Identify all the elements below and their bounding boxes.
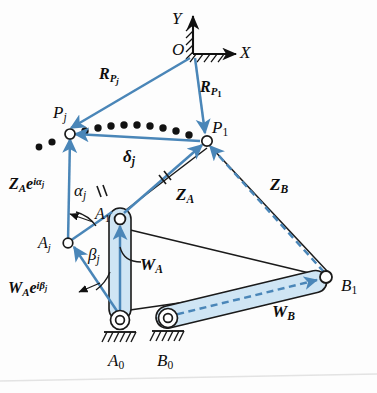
coordinate-axes [186,16,236,62]
vector-label-R-Pj: RPj [99,66,119,86]
joint-Pj [65,129,75,139]
vector-label-Z-B: ZB [270,176,288,196]
angle-label-beta-j: βj [88,246,100,266]
point-label-Pj: Pj [53,104,67,124]
angle-label-alpha-j: αj [74,182,86,202]
tick-ZArot-1 [97,186,101,197]
axis-label-x: X [240,44,250,61]
figure-canvas: Y X O RPj RP1 Pj P1 δj ZAeiαj αj ZA ZB A… [0,0,377,393]
point-label-Aj: Aj [38,235,51,253]
vector-label-delta-j: δj [123,148,135,168]
vector-label-Z-A-rotated: ZAeiαj [9,176,44,194]
angle-leader-alpha-j [70,214,93,222]
joint-A1 [115,214,126,225]
angle-leader-beta-j [79,283,100,292]
vector-label-W-B: WB [272,303,295,323]
joint-B1 [320,271,332,283]
vector-label-Z-A: ZA [176,186,194,206]
tick-ZArot-2 [103,185,107,196]
point-label-P1: P1 [212,119,228,139]
vector-R-Pj [71,58,190,128]
vector-delta-j [75,134,200,141]
vector-label-R-P1: RP1 [200,79,222,99]
point-label-A1: A1 [95,206,110,224]
joint-Aj [63,238,73,248]
page-baseline [0,374,377,381]
ground-pivot-A0 [102,311,136,343]
point-label-B0: B0 [157,352,173,372]
joint-P1 [202,136,212,146]
vector-Z-A-rotated [68,139,70,242]
link-WB-body [154,268,329,330]
axis-label-y: Y [172,10,181,27]
vector-label-W-A: WA [140,256,163,276]
point-label-A0: A0 [108,352,124,372]
point-label-O: O [172,41,184,58]
point-label-B1: B1 [341,277,357,297]
vector-label-W-A-rotated: WAeiβj [8,280,47,298]
